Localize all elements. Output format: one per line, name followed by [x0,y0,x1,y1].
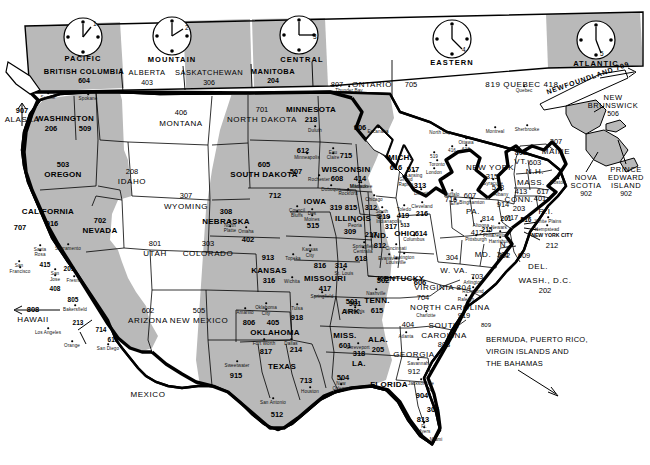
city-dot [343,268,345,270]
city-dot [314,125,316,127]
city-dot [47,327,49,329]
city-dot [451,145,453,147]
city-dot [499,236,501,238]
city-dot [360,181,362,183]
city-dot [557,177,559,179]
city-dot [340,378,342,380]
city-dot [18,260,20,262]
city-dot [375,288,377,290]
city-dot [498,222,500,224]
city-dot [421,201,423,203]
city-dot [244,307,246,309]
city-dot [420,188,422,190]
city-dot [309,250,311,252]
city-dot [71,340,73,342]
city-dot [388,253,390,255]
city-dot [465,137,467,139]
city-dot [354,220,356,222]
city-dot [417,358,419,360]
city-dot [296,205,298,207]
city-dot [423,426,425,428]
city-dot [309,386,311,388]
city-dot [526,124,528,126]
city-dot [395,243,397,245]
city-dot [348,85,350,87]
clock-hour-pacific: 1 [93,20,97,27]
city-dot [523,85,525,87]
city-dot [546,224,548,226]
city-dot [436,159,438,161]
area-code-map: 1 2 3 4 5 PACIFICMOUNTAINCENTRALEASTERNA… [0,0,650,465]
city-dot [492,178,494,180]
city-dot [433,167,435,169]
city-dot [306,152,308,154]
city-dot [494,126,496,128]
city-dot [54,274,56,276]
clock-hour-central: 3 [313,33,317,40]
city-dot [311,214,313,216]
city-dot [291,276,293,278]
city-dot [309,244,311,246]
city-dot [347,188,349,190]
city-dot [423,421,425,423]
city-dot [107,343,109,345]
city-dot [19,266,21,268]
city-dot [39,244,41,246]
clock-atlantic [577,21,615,59]
city-dot [403,204,405,206]
city-dot [433,151,435,153]
city-dot [47,92,49,94]
city-dot [67,243,69,245]
city-dot [488,230,490,232]
city-dot [471,197,473,199]
city-dot [472,286,474,288]
clock-hour-mountain: 2 [185,24,189,31]
city-dot [373,194,375,196]
city-dot [413,170,415,172]
city-dot [311,208,313,210]
city-dot [292,253,294,255]
city-dot [265,308,267,310]
timezone-clocks [64,16,615,59]
city-dot [395,257,397,259]
city-dot [425,310,427,312]
city-dot [332,152,334,154]
city-dot [265,302,267,304]
city-dot [499,230,501,232]
city-dot [74,304,76,306]
city-dot [236,360,238,362]
city-dot [263,338,265,340]
city-dot [500,189,502,191]
city-dot [377,126,379,128]
city-dot [465,144,467,146]
clock-mountain [153,17,191,55]
city-dot [340,383,342,385]
map-graphic: 1 2 3 4 5 [0,0,650,465]
city-dot [420,378,422,380]
city-dot [381,206,383,208]
city-dot [475,234,477,236]
city-dot [403,252,405,254]
city-dot [73,275,75,277]
city-dot [245,226,247,228]
city-dot [405,331,407,333]
city-dot [454,198,456,200]
city-dot [362,246,364,248]
city-dot [363,241,365,243]
city-dot [229,220,231,222]
city-dot [405,174,407,176]
city-dot [321,291,323,293]
city-dot [439,127,441,129]
city-dot [480,220,482,222]
city-dot [388,216,390,218]
city-dot [357,342,359,344]
city-dot [290,338,292,340]
city-dot [54,268,56,270]
city-dot [229,225,231,227]
city-dot [296,210,298,212]
city-dot [330,184,332,186]
city-dot [472,277,474,279]
city-dot [272,397,274,399]
clock-hour-atlantic: 5 [600,50,604,57]
city-dot [332,147,334,149]
